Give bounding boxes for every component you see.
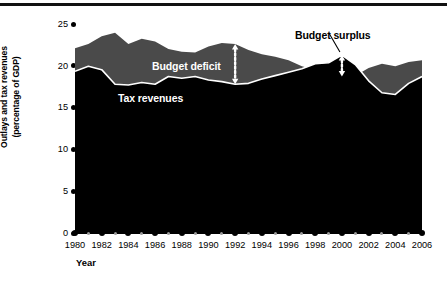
- x-tick-dot-1996: [286, 230, 292, 236]
- x-tick-dot-2004: [392, 230, 398, 236]
- top-rule: [0, 3, 447, 6]
- y-axis-title: Outlays and tax revenues (percentage of …: [0, 17, 25, 177]
- x-tick-dot-minor-2001: [354, 232, 357, 235]
- y-tick-label-20: 20: [38, 60, 68, 72]
- x-tick-dot-1986: [152, 230, 158, 236]
- y-tick-label-0: 0: [38, 227, 68, 239]
- x-tick-dot-minor-1993: [247, 232, 250, 235]
- series-label-tax-revenues: Tax revenues: [118, 92, 183, 104]
- x-tick-dot-1992: [232, 230, 238, 236]
- area-chart-svg: [75, 20, 422, 234]
- y-tick-label-25: 25: [38, 18, 68, 30]
- x-tick-dot-1988: [179, 230, 185, 236]
- plot-area: [75, 20, 422, 234]
- x-axis-title: Year: [76, 257, 96, 268]
- y-tick-label-10: 10: [38, 143, 68, 155]
- x-tick-dot-minor-1989: [194, 232, 197, 235]
- y-tick-label-15: 15: [38, 101, 68, 113]
- x-tick-dot-1994: [259, 230, 265, 236]
- x-tick-dot-2000: [339, 230, 345, 236]
- chart-figure: Outlays and tax revenues (percentage of …: [0, 0, 447, 281]
- annotation-label-surplus: Budget surplus: [295, 29, 371, 41]
- y-axis-title-line-2: (percentage of GDP): [11, 17, 23, 177]
- series-label-outlays: Outlays: [128, 26, 166, 38]
- x-tick-dot-1984: [125, 230, 131, 236]
- series-layer: [75, 33, 422, 234]
- x-tick-dot-1982: [99, 230, 105, 236]
- x-tick-dot-2006: [419, 230, 425, 236]
- x-tick-dot-1998: [312, 230, 318, 236]
- x-tick-dot-minor-1991: [220, 232, 223, 235]
- x-tick-dot-minor-1983: [114, 232, 117, 235]
- x-tick-dot-1990: [205, 230, 211, 236]
- x-tick-dot-minor-1995: [274, 232, 277, 235]
- annotation-label-deficit: Budget deficit: [152, 60, 221, 72]
- x-tick-dot-1980: [72, 230, 78, 236]
- y-axis-title-line-1: Outlays and tax revenues: [0, 17, 11, 177]
- x-tick-dot-minor-2005: [407, 232, 410, 235]
- x-tick-dot-minor-1997: [300, 232, 303, 235]
- x-tick-dot-2002: [366, 230, 372, 236]
- x-tick-label-2006: 2006: [402, 240, 442, 250]
- x-tick-dot-minor-1999: [327, 232, 330, 235]
- x-tick-dot-minor-1987: [167, 232, 170, 235]
- y-tick-label-5: 5: [38, 185, 68, 197]
- x-tick-dot-minor-1981: [87, 232, 90, 235]
- x-tick-dot-minor-1985: [140, 232, 143, 235]
